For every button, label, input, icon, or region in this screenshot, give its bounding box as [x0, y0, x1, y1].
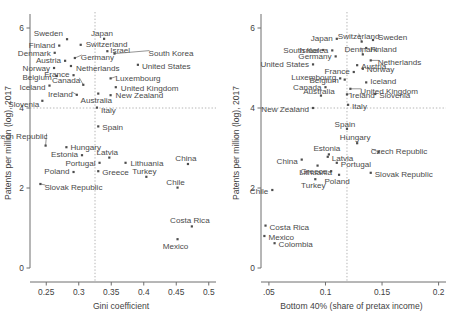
data-point-marker[interactable] — [312, 63, 314, 65]
data-point-label: China — [175, 154, 197, 163]
data-point-marker[interactable] — [372, 39, 374, 41]
data-point-marker[interactable] — [108, 157, 110, 159]
data-point-marker[interactable] — [98, 162, 100, 164]
y-tick-label: 6 — [19, 23, 24, 33]
data-point-marker[interactable] — [70, 65, 72, 67]
data-point-marker[interactable] — [353, 71, 355, 73]
data-point-marker[interactable] — [54, 52, 56, 54]
data-point-marker[interactable] — [97, 125, 99, 127]
data-point-marker[interactable] — [106, 50, 108, 52]
data-point-marker[interactable] — [338, 174, 340, 176]
data-point-label: Canada — [52, 76, 81, 85]
data-point-marker[interactable] — [335, 55, 337, 57]
data-point-marker[interactable] — [39, 183, 41, 185]
data-point-marker[interactable] — [331, 49, 333, 51]
data-point-marker[interactable] — [314, 178, 316, 180]
data-point-marker[interactable] — [65, 146, 67, 148]
data-point-marker[interactable] — [176, 187, 178, 189]
data-point-marker[interactable] — [58, 45, 60, 47]
data-point-marker[interactable] — [187, 163, 189, 165]
data-point-marker[interactable] — [271, 189, 273, 191]
data-point-label: Italy — [101, 106, 117, 115]
data-point-marker[interactable] — [176, 238, 178, 240]
data-point-label: Australia — [81, 96, 113, 105]
data-point-marker[interactable] — [322, 49, 324, 51]
data-point-marker[interactable] — [356, 64, 358, 66]
data-point-marker[interactable] — [339, 77, 341, 79]
data-point-marker[interactable] — [347, 104, 349, 106]
data-point-label: Portugal — [341, 160, 371, 169]
data-point-marker[interactable] — [145, 176, 147, 178]
data-point-marker[interactable] — [365, 81, 367, 83]
data-point-marker[interactable] — [330, 170, 332, 172]
data-point-marker[interactable] — [48, 85, 50, 87]
data-point-marker[interactable] — [110, 77, 112, 79]
data-point-marker[interactable] — [97, 170, 99, 172]
panel-bottom40: 0246.050.10.150.2Bottom 40% (share of pr… — [228, 0, 455, 318]
data-point-label: Latvia — [96, 148, 118, 157]
data-point-marker[interactable] — [327, 156, 329, 158]
x-tick-label: 0.25 — [38, 287, 55, 297]
data-point-marker[interactable] — [64, 60, 66, 62]
data-point-marker[interactable] — [361, 41, 363, 43]
data-point-marker[interactable] — [137, 64, 139, 66]
data-point-marker[interactable] — [370, 59, 372, 61]
data-point-marker[interactable] — [76, 94, 78, 96]
data-point-marker[interactable] — [370, 172, 372, 174]
data-point-label: Spain — [102, 123, 123, 132]
data-point-label: Sweden — [34, 29, 63, 38]
data-point-label: Czech Republic — [371, 147, 428, 156]
data-point-marker[interactable] — [301, 159, 303, 161]
data-point-marker[interactable] — [80, 44, 82, 46]
data-point-marker[interactable] — [264, 225, 266, 227]
data-point-marker[interactable] — [45, 145, 47, 147]
data-point-marker[interactable] — [374, 93, 376, 95]
data-point-marker[interactable] — [362, 68, 364, 70]
data-point-label: Slovak Republic — [375, 170, 433, 179]
data-point-label: Turkey — [132, 167, 157, 176]
data-point-marker[interactable] — [346, 93, 348, 95]
data-point-marker[interactable] — [328, 153, 330, 155]
data-point-marker[interactable] — [81, 154, 83, 156]
data-point-marker[interactable] — [72, 171, 74, 173]
data-point-marker[interactable] — [53, 67, 55, 69]
data-point-marker[interactable] — [263, 235, 265, 237]
scatter-figure: 02460.250.30.350.40.450.5Gini coefficien… — [0, 0, 455, 318]
data-point-marker[interactable] — [349, 88, 351, 90]
data-point-marker[interactable] — [344, 79, 346, 81]
data-point-label: Costa Rica — [170, 216, 210, 225]
x-tick-label: 0.35 — [103, 287, 120, 297]
data-point-marker[interactable] — [74, 57, 76, 59]
data-point-marker[interactable] — [312, 107, 314, 109]
data-point-label: Italy — [352, 102, 368, 111]
x-tick-label: 0.1 — [320, 287, 332, 297]
data-point-marker[interactable] — [191, 225, 193, 227]
data-point-label: South Korea — [149, 49, 194, 58]
data-point-label: Hungary — [340, 133, 372, 142]
data-point-label: Greece — [102, 168, 129, 177]
x-tick-label: 0.4 — [138, 287, 150, 297]
data-point-label: Slovenia — [8, 100, 40, 109]
data-point-label: Ireland — [48, 90, 73, 99]
data-point-marker[interactable] — [124, 162, 126, 164]
data-point-label: Costa Rica — [270, 223, 310, 232]
data-point-label: Poland — [44, 167, 69, 176]
data-point-marker[interactable] — [41, 100, 43, 102]
data-point-marker[interactable] — [336, 162, 338, 164]
x-tick-label: 0.2 — [433, 287, 445, 297]
data-point-label: Australia — [303, 87, 335, 96]
panel-gini: 02460.250.30.350.40.450.5Gini coefficien… — [0, 0, 227, 318]
data-point-marker[interactable] — [66, 38, 68, 40]
x-axis-title: Gini coefficient — [93, 301, 150, 311]
data-point-marker[interactable] — [356, 142, 358, 144]
data-point-marker[interactable] — [97, 93, 99, 95]
data-point-label: Japan — [91, 29, 113, 38]
data-point-label: Estonia — [313, 144, 340, 153]
data-point-label: Spain — [335, 120, 356, 129]
data-point-marker[interactable] — [115, 86, 117, 88]
chart-group: 0246.050.10.150.2Bottom 40% (share of pr… — [231, 12, 446, 311]
data-point-marker[interactable] — [82, 84, 84, 86]
data-point-marker[interactable] — [110, 94, 112, 96]
data-point-marker[interactable] — [273, 242, 275, 244]
data-point-marker[interactable] — [96, 107, 98, 109]
